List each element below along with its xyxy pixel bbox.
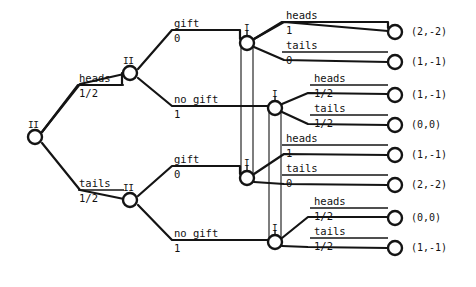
action-label-p1-tails-1: tails — [286, 40, 318, 51]
prob-label-tails: 1/2 — [79, 193, 98, 204]
node-nogift-bot[interactable] — [268, 235, 282, 249]
node-tails[interactable] — [123, 193, 137, 207]
prob-label-p1-heads-1: 1 — [286, 25, 292, 36]
action-label-tails: tails — [79, 178, 111, 189]
terminal-node-4[interactable] — [388, 118, 402, 132]
branch-p1-tails-3 — [254, 182, 388, 185]
node-root[interactable] — [28, 130, 42, 144]
branch-gift-bottom — [138, 166, 240, 196]
info-set-lines — [241, 43, 281, 242]
player-label-root: II — [28, 119, 38, 130]
prob-label-p1-tails-2: 1/2 — [314, 118, 333, 129]
terminal-node-1[interactable] — [388, 25, 402, 39]
action-label-no-gift-top: no gift — [174, 94, 218, 105]
player-label-gift-bottom: I — [244, 157, 249, 168]
payoff-5: (1,-1) — [411, 149, 447, 160]
player-label-nogift-top: I — [272, 88, 277, 99]
node-heads[interactable] — [123, 66, 137, 80]
terminal-node-7[interactable] — [388, 211, 402, 225]
decision-nodes — [28, 36, 282, 249]
terminal-node-8[interactable] — [388, 241, 402, 255]
action-label-p1-tails-4: tails — [314, 226, 346, 237]
prob-label-p1-heads-3: 1 — [286, 148, 292, 159]
payoff-1: (2,-2) — [411, 26, 447, 37]
action-label-heads: heads — [79, 73, 111, 84]
prob-label-p1-tails-1: 0 — [286, 55, 292, 66]
payoff-6: (2,-2) — [411, 179, 447, 190]
action-label-gift-bottom: gift — [174, 154, 199, 165]
node-gift-top[interactable] — [240, 36, 254, 50]
prob-label-p1-tails-4: 1/2 — [314, 241, 333, 252]
game-tree-canvas — [0, 0, 476, 287]
game-tree-figure: II II II I I I I heads 1/2 tails 1/2 gif… — [0, 0, 476, 287]
player-label-heads: II — [123, 55, 133, 66]
terminal-node-6[interactable] — [388, 178, 402, 192]
payoff-3: (1,-1) — [411, 89, 447, 100]
payoff-7: (0,0) — [411, 212, 441, 223]
action-label-p1-heads-3: heads — [286, 133, 318, 144]
terminal-nodes — [388, 25, 402, 255]
terminal-node-3[interactable] — [388, 88, 402, 102]
action-label-p1-heads-1: heads — [286, 10, 318, 21]
payoff-4: (0,0) — [411, 119, 441, 130]
node-nogift-top[interactable] — [268, 101, 282, 115]
player-ticks — [247, 30, 275, 236]
action-label-p1-heads-2: heads — [314, 73, 346, 84]
action-label-gift-top: gift — [174, 18, 199, 29]
prob-label-gift-top: 0 — [174, 33, 180, 44]
prob-label-p1-heads-4: 1/2 — [314, 211, 333, 222]
prob-label-no-gift-top: 1 — [174, 109, 180, 120]
action-label-p1-tails-2: tails — [314, 103, 346, 114]
player-label-gift-top: I — [244, 22, 249, 33]
terminal-node-2[interactable] — [388, 55, 402, 69]
action-label-p1-tails-3: tails — [286, 163, 318, 174]
player-label-tails: II — [123, 182, 133, 193]
prob-label-heads: 1/2 — [79, 88, 98, 99]
player-label-nogift-bot: I — [272, 222, 277, 233]
payoff-2: (1,-1) — [411, 56, 447, 67]
prob-label-p1-heads-2: 1/2 — [314, 88, 333, 99]
payoff-8: (1,-1) — [411, 242, 447, 253]
branch-p1-tails-4 — [282, 246, 388, 248]
node-gift-bottom[interactable] — [240, 171, 254, 185]
prob-label-no-gift-bot: 1 — [174, 243, 180, 254]
branch-p1-heads-3 — [254, 154, 388, 174]
branch-gift-top — [138, 30, 240, 69]
action-label-no-gift-bot: no gift — [174, 228, 218, 239]
branch-p1-heads-1b — [254, 22, 388, 39]
tree-branches — [42, 22, 388, 248]
branch-p1-tails-1 — [254, 47, 388, 62]
prob-label-p1-tails-3: 0 — [286, 178, 292, 189]
prob-label-gift-bottom: 0 — [174, 169, 180, 180]
terminal-node-5[interactable] — [388, 148, 402, 162]
action-label-p1-heads-4: heads — [314, 196, 346, 207]
